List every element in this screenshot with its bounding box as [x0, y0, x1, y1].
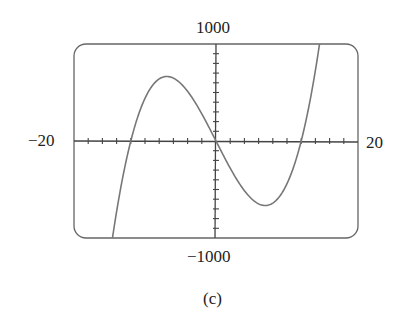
x-axis-max-label: 20	[366, 134, 383, 151]
plot-canvas	[0, 0, 404, 327]
figure-caption: (c)	[203, 290, 222, 307]
x-axis-min-label: −20	[28, 132, 55, 149]
y-axis-max-label: 1000	[196, 19, 230, 36]
y-axis-min-label: −1000	[187, 248, 231, 265]
